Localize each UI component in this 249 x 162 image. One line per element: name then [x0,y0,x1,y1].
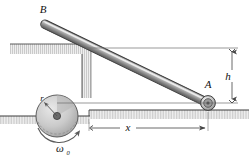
label-b: B [40,3,47,15]
label-x: x [125,121,131,133]
label-r: r [40,93,44,103]
label-h: h [225,70,231,82]
label-a: A [204,78,212,90]
rod-body-group [39,19,209,107]
label-omega-group: ω 0 [56,142,70,156]
label-omega: ω [56,142,64,154]
label-omega-subscript: 0 [66,149,70,156]
wall-vertical-column [82,44,91,98]
dimension-h: h [225,49,235,103]
ground-right-hatch [89,110,249,119]
rod-ab [39,19,209,107]
dimension-h-arrowhead-bottom [229,100,235,103]
figure-canvas: h x B A r ω 0 [0,0,249,162]
dimension-h-arrowhead-top [229,49,235,52]
mechanics-figure: h x B A r ω 0 [0,0,249,162]
ground-recess [89,119,249,122]
upper-wall-support [10,44,92,98]
rod-highlight [44,21,206,100]
